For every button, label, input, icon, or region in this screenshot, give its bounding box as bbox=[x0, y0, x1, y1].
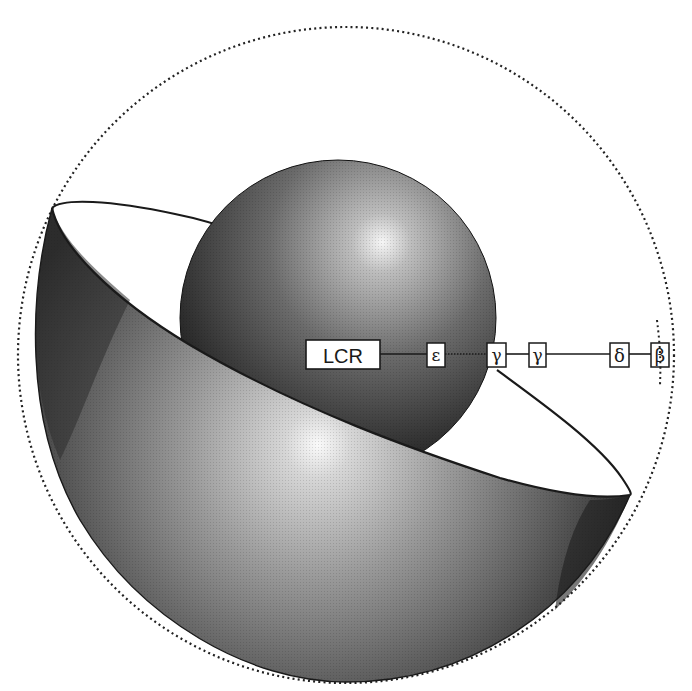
gamma-a-label: γ bbox=[532, 345, 542, 365]
epsilon-label: ε bbox=[432, 345, 441, 365]
chain-node-lcr: LCR bbox=[306, 340, 380, 369]
delta-label: δ bbox=[614, 345, 625, 366]
chain-node-gamma-g: γ bbox=[487, 343, 506, 367]
bowl-back-rim-right bbox=[497, 370, 631, 495]
gamma-g-label: γ bbox=[491, 345, 501, 365]
lcr-label: LCR bbox=[323, 345, 363, 367]
chain-node-epsilon: ε bbox=[427, 343, 445, 367]
chain-node-delta: δ bbox=[610, 343, 629, 367]
diagram-canvas: LCR ε γ γ δ β bbox=[0, 0, 692, 691]
chain-node-gamma-a: γ bbox=[529, 343, 546, 367]
